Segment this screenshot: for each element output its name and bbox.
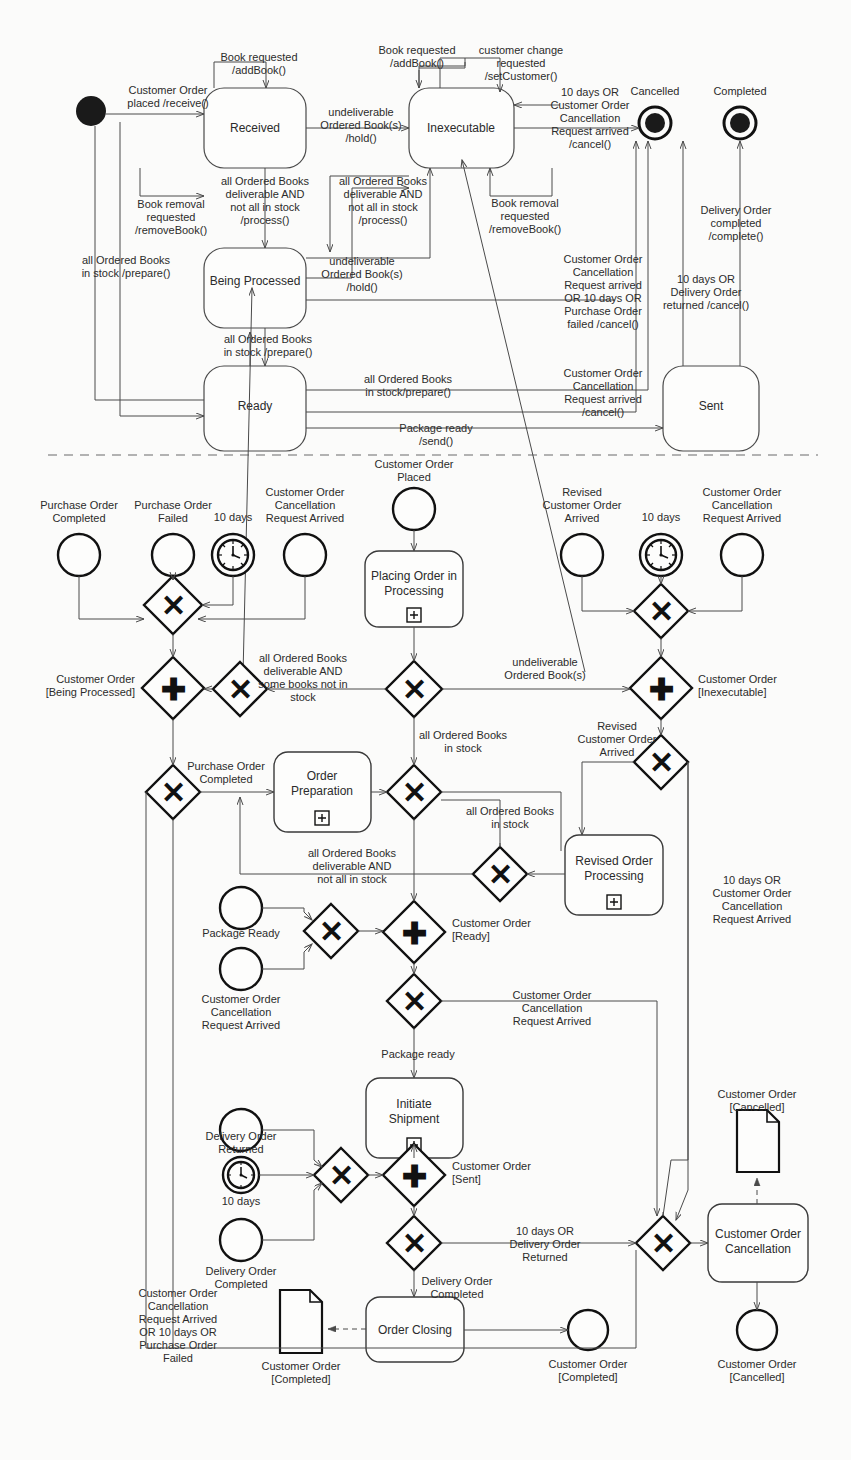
tlabel-t2: Book requested/addBook() <box>220 51 297 76</box>
tlabel-t18: Customer OrderCancellationRequest arrive… <box>564 367 643 418</box>
event-cancel-request-1[interactable] <box>284 534 326 576</box>
svg-text:✕: ✕ <box>402 985 427 1018</box>
state-inexecutable-label: Inexecutable <box>427 121 495 135</box>
task-revised-order-processing-label: Revised OrderProcessing <box>575 854 652 883</box>
data-object-customer-order-completed-label: Customer Order[Completed] <box>262 1360 341 1385</box>
event-package-ready-label: Package Ready <box>202 927 280 939</box>
event-purchase-order-failed-label: Purchase OrderFailed <box>134 499 212 524</box>
flow-label-f12: Delivery OrderCompleted <box>422 1275 493 1300</box>
svg-text:✕: ✕ <box>402 673 427 706</box>
gateway-and-inexecutable[interactable]: ✚ <box>630 657 692 719</box>
event-timer-10-days-2-label: 10 days <box>642 511 681 523</box>
final-state-cancelled-label: Cancelled <box>631 85 680 97</box>
svg-text:✚: ✚ <box>402 917 427 950</box>
flow-label-f11: 10 days ORDelivery OrderReturned <box>510 1225 581 1263</box>
gateway-xor-6[interactable]: ✕ <box>387 765 441 819</box>
event-cancel-request-3-label: Customer OrderCancellationRequest Arrive… <box>202 993 281 1031</box>
flow-label-f5: all Ordered Booksin stock <box>466 805 555 830</box>
svg-text:✕: ✕ <box>319 915 344 948</box>
flow-label-f9: Customer OrderCancellationRequest Arrive… <box>513 989 592 1027</box>
tlabel-t3: Book requested/addBook() <box>378 44 455 69</box>
event-package-ready[interactable] <box>220 887 262 929</box>
tlabel-t15: Customer OrderCancellationRequest arrive… <box>564 253 643 330</box>
flow-label-f3: Purchase OrderCompleted <box>187 760 265 785</box>
diagonal-link-inexecutable <box>462 160 585 672</box>
event-revised-order-arrived-1[interactable] <box>561 534 603 576</box>
gateway-xor-1[interactable]: ✕ <box>144 576 202 634</box>
gateway-xor-11[interactable]: ✕ <box>314 1148 368 1202</box>
event-revised-order-arrived-1-label: RevisedCustomer OrderArrived <box>543 486 622 524</box>
data-object-customer-order-cancelled-label: Customer Order[Cancelled] <box>718 1088 797 1113</box>
annotation-being-processed: Customer Order[Being Processed] <box>46 673 136 698</box>
tlabel-t10: 10 days ORCustomer OrderCancellationRequ… <box>551 86 630 150</box>
event-customer-order-placed[interactable] <box>393 488 435 530</box>
flow-label-f2: undeliverableOrdered Book(s) <box>504 656 585 681</box>
task-customer-order-cancellation-label: Customer OrderCancellation <box>715 1227 801 1256</box>
event-timer-10-days-3[interactable] <box>223 1157 259 1193</box>
event-purchase-order-failed[interactable] <box>152 534 194 576</box>
final-state-cancelled <box>639 107 671 139</box>
svg-text:✕: ✕ <box>488 858 513 891</box>
flow-label-f13: Customer OrderCancellationRequest Arrive… <box>139 1287 218 1364</box>
event-purchase-order-completed-label: Purchase OrderCompleted <box>40 499 118 524</box>
event-delivery-order-completed[interactable] <box>220 1219 262 1261</box>
svg-text:✕: ✕ <box>161 589 186 622</box>
tlabel-t19: Package ready/send() <box>399 422 473 447</box>
svg-text:✕: ✕ <box>651 1227 676 1260</box>
gateway-xor-9[interactable]: ✕ <box>304 904 358 958</box>
flow-label-f1: all Ordered Booksdeliverable ANDsome boo… <box>258 652 347 703</box>
gateway-xor-4[interactable]: ✕ <box>634 584 688 638</box>
svg-text:✕: ✕ <box>161 776 186 809</box>
state-ready-label: Ready <box>238 399 273 413</box>
event-customer-order-placed-label: Customer OrderPlaced <box>375 458 454 483</box>
event-timer-10-days-1[interactable] <box>212 534 254 576</box>
tlabel-t1: Customer Orderplaced /receive() <box>127 84 208 109</box>
end-event-customer-order-completed[interactable] <box>568 1310 608 1350</box>
gateway-xor-8[interactable]: ✕ <box>473 847 527 901</box>
gateway-and-ready[interactable]: ✚ <box>383 901 445 963</box>
flow-label-f8: 10 days ORCustomer OrderCancellationRequ… <box>713 874 792 925</box>
task-order-closing-label: Order Closing <box>378 1323 452 1337</box>
tlabel-t14: all Ordered Booksin stock /prepare() <box>224 333 313 358</box>
annotation-sent: Customer Order[Sent] <box>452 1160 531 1185</box>
svg-text:✕: ✕ <box>329 1159 354 1192</box>
tlabel-t13: undeliverableOrdered Book(s)/hold() <box>321 255 402 293</box>
end-event-customer-order-completed-label: Customer Order[Completed] <box>549 1358 628 1383</box>
event-cancel-request-3[interactable] <box>220 948 262 990</box>
end-event-customer-order-cancelled-label: Customer Order[Cancelled] <box>718 1358 797 1383</box>
tlabel-t16: 10 days ORDelivery Orderreturned /cancel… <box>663 273 749 311</box>
state-being-processed-label: Being Processed <box>210 274 301 288</box>
flow-label-f7: all Ordered Booksdeliverable ANDnot all … <box>308 847 397 885</box>
gateway-xor-12[interactable]: ✕ <box>387 1216 441 1270</box>
tlabel-t5: undeliverableOrdered Book(s)/hold() <box>320 106 401 144</box>
event-cancel-request-2[interactable] <box>721 534 763 576</box>
gateway-xor-13[interactable]: ✕ <box>636 1216 690 1270</box>
event-cancel-request-1-label: Customer OrderCancellationRequest Arrive… <box>266 486 345 524</box>
annotation-ready: Customer Order[Ready] <box>452 917 531 942</box>
annotation-inexecutable: Customer Order[Inexecutable] <box>698 673 777 698</box>
tlabel-t11: Delivery Ordercompleted/complete() <box>701 204 772 242</box>
tlabel-t6: Book removalrequested/removeBook() <box>135 198 207 236</box>
state-being-processed[interactable] <box>204 248 306 328</box>
diagram-canvas: Received Inexecutable Being Processed Re… <box>0 0 851 1460</box>
flow-label-f10: Package ready <box>381 1048 455 1060</box>
end-event-customer-order-cancelled[interactable] <box>737 1310 777 1350</box>
tlabel-t4: customer changerequested/setCustomer() <box>479 44 563 82</box>
svg-text:✚: ✚ <box>402 1160 427 1193</box>
tlabel-t7: all Ordered Booksdeliverable ANDnot all … <box>221 175 310 226</box>
tlabel-t9: Book removalrequested/removeBook() <box>489 197 561 235</box>
event-purchase-order-completed[interactable] <box>58 534 100 576</box>
event-cancel-request-2-label: Customer OrderCancellationRequest Arrive… <box>703 486 782 524</box>
gateway-and-being-processed[interactable]: ✚ <box>142 657 204 719</box>
initial-state <box>76 96 106 126</box>
tlabel-t12: all Ordered Booksin stock /prepare() <box>82 254 171 279</box>
state-received-label: Received <box>230 121 280 135</box>
event-timer-10-days-3-label: 10 days <box>222 1195 261 1207</box>
event-timer-10-days-1-label: 10 days <box>214 511 253 523</box>
event-timer-10-days-2[interactable] <box>640 534 682 576</box>
gateway-xor-5[interactable]: ✕ <box>146 765 200 819</box>
svg-text:✚: ✚ <box>649 673 674 706</box>
gateway-xor-3[interactable]: ✕ <box>386 661 442 717</box>
gateway-xor-10[interactable]: ✕ <box>387 974 441 1028</box>
svg-text:✕: ✕ <box>402 1227 427 1260</box>
